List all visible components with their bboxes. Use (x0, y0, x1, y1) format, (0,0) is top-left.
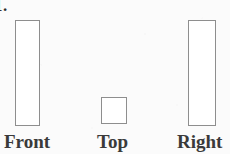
front-view-rectangle (15, 20, 40, 126)
orthographic-views-figure: 1. Front Top Right (0, 0, 230, 154)
top-view-square (101, 97, 127, 124)
right-view-rectangle (188, 20, 216, 126)
problem-number: 1. (0, 0, 8, 14)
front-view-label: Front (4, 132, 50, 151)
right-view-label: Right (177, 132, 222, 151)
top-view-label: Top (97, 132, 128, 151)
